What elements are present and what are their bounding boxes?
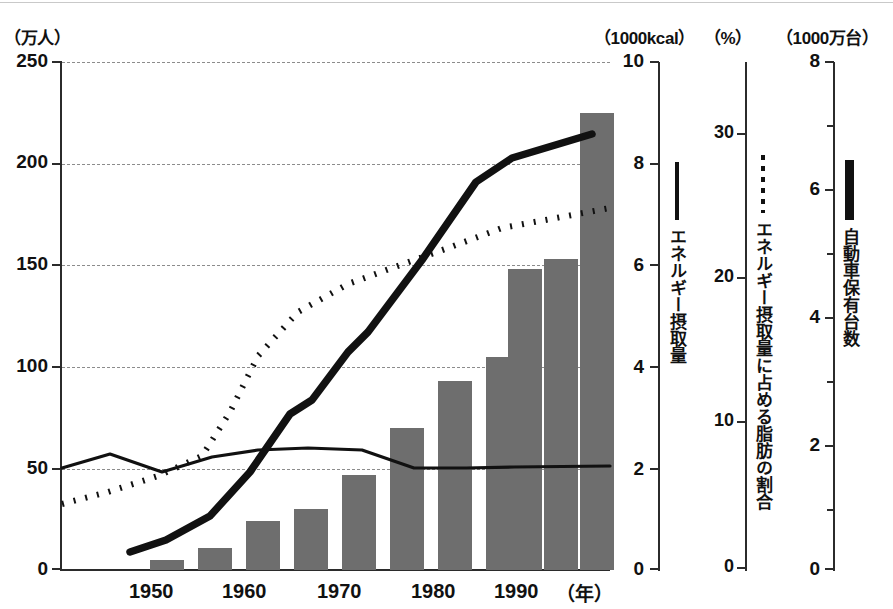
left-tickmark-200	[52, 163, 62, 165]
car-axis-unit: （1000万台）	[776, 24, 879, 49]
car-tickmark-4	[825, 317, 834, 319]
fat-ratio-line	[62, 208, 610, 504]
legend-car-ownership: 自動車保有台数	[841, 160, 858, 347]
car-tickmark-2	[825, 445, 834, 447]
legend-car-ownership-label: 自動車保有台数	[841, 228, 858, 347]
energy-axis-line	[658, 62, 660, 571]
left-tickmark-0	[52, 568, 62, 570]
top-rule	[0, 2, 893, 3]
x-label-1970: 1970	[317, 580, 362, 603]
left-axis-unit: （万人）	[4, 24, 70, 49]
chart-root: （万人） 250 200 150 100 50 0	[0, 0, 893, 609]
left-tick-200: 200	[6, 151, 48, 173]
energy-intake-line	[62, 448, 610, 472]
fat-tick-10: 10	[700, 410, 734, 431]
fat-axis-line	[745, 62, 747, 571]
car-tick-4: 4	[790, 306, 820, 328]
left-tick-250: 250	[6, 50, 48, 72]
x-label-1960: 1960	[222, 580, 267, 603]
car-tickmark-8	[825, 61, 834, 63]
energy-tickmark-0	[650, 568, 659, 570]
legend-fat-ratio: エネルギー摂取量に占める脂肪の割合	[754, 155, 771, 510]
fat-tickmark-20	[737, 277, 746, 279]
dotted-line-swatch-icon	[761, 155, 765, 213]
left-tickmark-250	[52, 61, 62, 63]
left-tick-50: 50	[6, 457, 48, 479]
fat-tickmark-30	[737, 133, 746, 135]
energy-tick-2: 2	[610, 458, 644, 480]
car-tick-2: 2	[790, 434, 820, 456]
solid-line-swatch-icon	[675, 162, 679, 220]
left-tick-0: 0	[6, 558, 48, 580]
car-tick-6: 6	[790, 178, 820, 200]
plot-area	[62, 62, 610, 570]
car-tickmark-1	[827, 509, 834, 511]
legend-fat-ratio-label: エネルギー摂取量に占める脂肪の割合	[754, 221, 771, 510]
left-tickmark-150	[52, 264, 62, 266]
x-axis-unit: （年）	[556, 579, 613, 606]
left-tick-100: 100	[6, 355, 48, 377]
car-ownership-line	[130, 134, 592, 552]
energy-tickmark-6	[650, 264, 659, 266]
x-label-1950: 1950	[129, 580, 174, 603]
fat-tick-20: 20	[700, 266, 734, 287]
car-tickmark-7	[827, 125, 834, 127]
legend-energy-intake: エネルギー摂取量	[668, 162, 685, 364]
car-tickmark-6	[825, 189, 834, 191]
energy-tickmark-8	[650, 163, 659, 165]
left-tickmark-100	[52, 366, 62, 368]
fat-axis-unit: （%）	[704, 24, 752, 49]
energy-tick-10: 10	[610, 50, 644, 72]
energy-axis-unit: （1000kcal）	[594, 24, 695, 49]
fat-tick-0: 0	[700, 556, 734, 577]
left-tick-150: 150	[6, 253, 48, 275]
fat-tickmark-0	[737, 567, 746, 569]
energy-tickmark-2	[650, 468, 659, 470]
energy-tick-8: 8	[610, 152, 644, 174]
car-tick-0: 0	[790, 558, 820, 580]
legend-energy-intake-label: エネルギー摂取量	[668, 228, 685, 364]
energy-tickmark-4	[650, 366, 659, 368]
car-tickmark-0	[825, 568, 834, 570]
fat-tickmark-10	[737, 421, 746, 423]
x-label-1980: 1980	[411, 580, 456, 603]
car-tickmark-3	[827, 381, 834, 383]
energy-tick-0: 0	[610, 558, 644, 580]
series-overlay	[62, 62, 610, 570]
x-label-1990: 1990	[494, 580, 539, 603]
energy-tick-6: 6	[610, 254, 644, 276]
energy-tick-4: 4	[610, 356, 644, 378]
fat-tick-30: 30	[700, 122, 734, 143]
thick-line-swatch-icon	[845, 160, 854, 220]
energy-tickmark-10	[650, 61, 659, 63]
car-tick-8: 8	[790, 50, 820, 72]
car-tickmark-5	[827, 253, 834, 255]
